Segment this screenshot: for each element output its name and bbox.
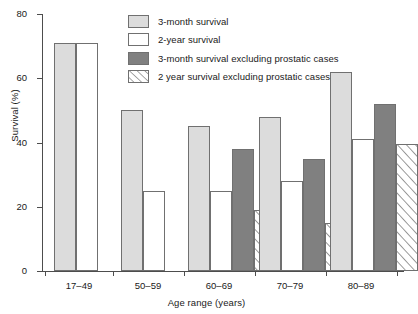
bar-80-89-2-year-survival-excluding-prostatic (396, 144, 418, 271)
x-tick-left-17-49 (45, 271, 46, 276)
legend-item-2-year-survival-excluding-prostatic: 2 year survival excluding prostatic case… (128, 68, 398, 87)
y-tick-20 (37, 207, 42, 208)
swatch-dark-gray-icon (128, 52, 149, 65)
x-tick-label-80-89: 80–89 (331, 281, 391, 291)
legend-label-2-year-survival-excluding-prostatic: 2 year survival excluding prostatic case… (158, 71, 330, 82)
bar-80-89-3-month-survival (330, 72, 352, 271)
bar-60-69-2-year-survival (210, 191, 232, 271)
x-tick-left-50-59 (113, 271, 114, 276)
bar-70-79-3-month-survival-excluding-prostatic (303, 159, 325, 271)
legend-item-3-month-survival-excluding-prostatic: 3-month survival excluding prostatic cas… (128, 49, 398, 68)
bar-50-59-2-year-survival (143, 191, 165, 271)
x-tick-left-60-69 (184, 271, 185, 276)
bar-80-89-3-month-survival-excluding-prostatic (374, 104, 396, 271)
y-tick-label-80: 80 (0, 9, 27, 19)
swatch-light-gray-icon (128, 15, 149, 28)
y-axis-line (42, 14, 43, 272)
x-tick-label-50-59: 50–59 (118, 281, 178, 291)
y-tick-40 (37, 143, 42, 144)
swatch-white-icon (128, 33, 149, 46)
y-tick-label-60: 60 (0, 73, 27, 83)
swatch-hatched-icon (128, 70, 149, 83)
bar-17-49-2-year-survival (76, 43, 98, 271)
y-tick-label-0: 0 (0, 266, 27, 276)
bar-80-89-2-year-survival (352, 139, 374, 271)
legend-label-3-month-survival: 3-month survival (158, 16, 229, 27)
x-axis-line (42, 271, 404, 272)
y-tick-0 (37, 271, 42, 272)
diagonal-hatch-icon (129, 71, 148, 82)
x-axis-label: Age range (years) (0, 297, 413, 308)
bar-60-69-3-month-survival-excluding-prostatic (232, 149, 254, 271)
chart-legend: 3-month survival 2-year survival 3-month… (128, 12, 398, 86)
legend-label-2-year-survival: 2-year survival (158, 34, 221, 45)
x-tick-label-70-79: 70–79 (260, 281, 320, 291)
legend-item-2-year-survival: 2-year survival (128, 31, 398, 50)
y-tick-60 (37, 78, 42, 79)
diagonal-hatch-icon (397, 145, 417, 270)
x-tick-label-60-69: 60–69 (189, 281, 249, 291)
y-tick-label-20: 20 (0, 202, 27, 212)
x-tick-right-80-89 (397, 271, 398, 276)
legend-label-3-month-survival-excluding-prostatic: 3-month survival excluding prostatic cas… (158, 53, 339, 64)
y-tick-80 (37, 14, 42, 15)
legend-item-3-month-survival: 3-month survival (128, 12, 398, 31)
x-tick-left-70-79 (255, 271, 256, 276)
bar-60-69-3-month-survival (188, 126, 210, 271)
bar-70-79-2-year-survival (281, 181, 303, 271)
bar-50-59-3-month-survival (121, 110, 143, 271)
x-tick-left-80-89 (326, 271, 327, 276)
x-tick-label-17-49: 17–49 (49, 281, 109, 291)
bar-70-79-3-month-survival (259, 117, 281, 271)
y-tick-label-40: 40 (0, 138, 27, 148)
bar-17-49-3-month-survival (54, 43, 76, 271)
